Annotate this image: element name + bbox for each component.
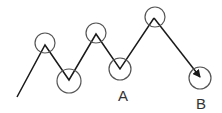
zigzag-path-line <box>17 18 154 97</box>
peak-circle-1 <box>35 33 55 53</box>
arrow-to-b <box>154 18 200 77</box>
label-b: B <box>196 95 206 112</box>
end-circle-b <box>189 67 211 89</box>
label-a: A <box>118 87 128 104</box>
peak-circle-3 <box>145 7 165 27</box>
zigzag-diagram: A B <box>0 0 222 113</box>
